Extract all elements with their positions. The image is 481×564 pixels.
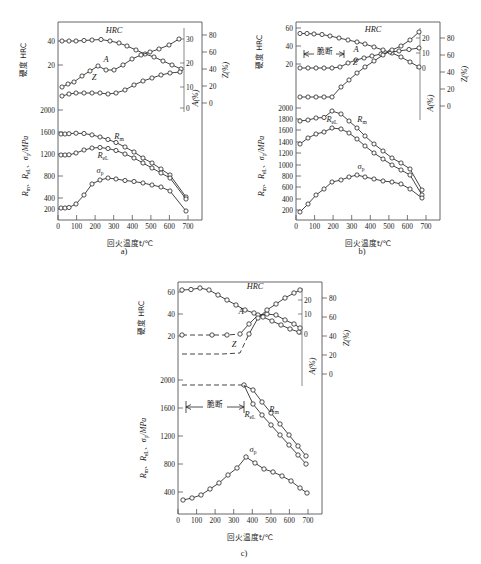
y-tick-label-mpa: 1600 [40, 128, 55, 137]
panel-b-x-ticks: 0 100 200 300 400 500 600 700 [294, 215, 432, 231]
curve-sp [59, 176, 188, 213]
annotation-label-brittle: 脆断 [317, 46, 333, 56]
panel-caption-b: b) [244, 246, 480, 256]
x-tick-label: 700 [302, 516, 313, 525]
y-tick-label-hrc: 40 [48, 37, 56, 46]
y-tick-label-mpa: 200 [44, 205, 55, 214]
svg-text:Rm: Rm [356, 115, 367, 125]
curve-label-hrc: HRC [364, 25, 382, 34]
panel-c-left-ticks: 60 40 20 2000 1600 1200 800 400 [160, 288, 183, 497]
curve-label-z: Z [232, 340, 237, 349]
axis-title-a: A(%) [426, 94, 435, 112]
y-tick-label-mpa: 2000 [160, 376, 175, 385]
x-tick-label: 200 [210, 516, 221, 525]
y-tick-label-mpa: 800 [164, 460, 175, 469]
axis-title-a: A(%) [191, 89, 200, 107]
y-tick-label-mpa: 400 [282, 195, 293, 204]
axis-title-stress: Rm、ReL、σp/MPa [257, 136, 267, 198]
y-tick-label-mpa: 2000 [278, 104, 293, 113]
panel-c-x-ticks: 0 100 200 300 400 500 600 700 [176, 509, 314, 525]
x-tick-label: 500 [145, 222, 156, 231]
curve-z [60, 70, 182, 98]
panel-b-right-ticks-z: 80 60 40 20 0 [440, 34, 455, 111]
curve-label-a: A [352, 45, 359, 54]
z-tick-label: 0 [209, 99, 213, 108]
curve-label-rm: Rm [113, 132, 124, 142]
y-tick-label-mpa: 1200 [278, 149, 293, 158]
svg-text:σp: σp [250, 445, 257, 455]
x-tick-label: 100 [71, 222, 82, 231]
curve-z [298, 30, 421, 99]
panel-a-x-ticks: 0 100 200 300 400 500 600 700 [56, 215, 194, 231]
axis-title-z: Z(%) [342, 329, 351, 346]
z-tick-label: 20 [329, 351, 337, 360]
x-tick-label: 400 [127, 222, 138, 231]
y-tick-label-hrc: 20 [286, 60, 294, 69]
y-tick-label-hrc: 20 [168, 332, 176, 341]
panel-a-left-ticks: 40 20 2000 1600 1200 800 400 200 [40, 37, 63, 214]
svg-text:Rm、ReL、σp/MPa: Rm、ReL、σp/MPa [257, 136, 267, 198]
z-tick-label: 60 [447, 51, 455, 60]
axis-title-z: Z(%) [221, 61, 230, 78]
a-tick-label: 20 [186, 59, 194, 68]
y-tick-label-mpa: 1600 [160, 404, 175, 413]
curve-label-sp: σp [358, 162, 365, 172]
curve-label-z: Z [353, 58, 358, 67]
y-tick-label-mpa: 400 [164, 488, 175, 497]
curve-sp [181, 455, 309, 502]
svg-text:Rm: Rm [113, 132, 124, 142]
x-tick-label: 300 [108, 222, 119, 231]
z-tick-label: 20 [209, 82, 217, 91]
x-tick-label: 600 [402, 222, 413, 231]
curve-label-a: A [237, 307, 244, 316]
y-tick-label-mpa: 600 [282, 183, 293, 192]
brittle-fracture-annotation: 脆断 [186, 399, 244, 414]
x-tick-label: 300 [228, 516, 239, 525]
svg-text:Rm、ReL、σp/MPa: Rm、ReL、σp/MPa [21, 136, 31, 198]
z-tick-label: 40 [209, 65, 217, 74]
a-tick-label: 0 [422, 64, 426, 73]
z-tick-label: 40 [329, 332, 337, 341]
x-tick-label: 200 [90, 222, 101, 231]
y-tick-label-mpa: 1600 [278, 126, 293, 135]
y-tick-label-mpa: 2000 [40, 106, 55, 115]
x-tick-label: 300 [346, 222, 357, 231]
y-tick-label-mpa: 400 [44, 194, 55, 203]
a-tick-label: 0 [304, 330, 308, 339]
panel-b-left-ticks: 60 40 20 2000 1800 1600 1400 1200 1000 8… [278, 24, 301, 215]
z-tick-label: 60 [329, 313, 337, 322]
svg-text:ReL: ReL [325, 115, 338, 125]
z-tick-label: 0 [447, 102, 451, 111]
y-tick-label-mpa: 800 [282, 172, 293, 181]
y-tick-label-hrc: 40 [168, 310, 176, 319]
y-tick-label-mpa: 1800 [278, 115, 293, 124]
x-tick-label: 700 [420, 222, 431, 231]
y-tick-label-hrc: 60 [168, 288, 176, 297]
curve-label-rm: Rm [356, 115, 367, 125]
x-tick-label: 0 [56, 222, 60, 231]
y-tick-label-mpa: 1200 [160, 432, 175, 441]
z-tick-label: 80 [329, 294, 337, 303]
y-tick-label-hrc: 60 [286, 24, 294, 33]
svg-text:Rm、ReL、σp/MPa: Rm、ReL、σp/MPa [139, 418, 149, 480]
a-tick-label: 20 [304, 296, 312, 305]
svg-text:σp: σp [358, 162, 365, 172]
y-tick-label-hrc: 40 [286, 42, 294, 51]
a-tick-label: 10 [422, 49, 430, 58]
curve-label-rel: ReL [325, 115, 338, 125]
curve-label-a: A [102, 55, 109, 64]
panel-a-axes [58, 22, 202, 220]
z-tick-label: 60 [209, 48, 217, 57]
brittle-fracture-annotation: 脆断 [304, 46, 344, 59]
axis-title-a: A(%) [308, 357, 317, 375]
x-tick-label: 600 [164, 222, 175, 231]
y-tick-label-mpa: 1200 [40, 150, 55, 159]
curve-label-sp: σp [97, 166, 104, 176]
x-tick-label: 700 [182, 222, 193, 231]
panel-c: 0 100 200 300 400 500 600 700 60 40 20 2… [122, 262, 366, 562]
z-tick-label: 80 [209, 31, 217, 40]
z-tick-label: 40 [447, 68, 455, 77]
annotation-label-brittle: 脆断 [207, 399, 223, 409]
x-tick-label: 400 [247, 516, 258, 525]
x-tick-label: 100 [309, 222, 320, 231]
